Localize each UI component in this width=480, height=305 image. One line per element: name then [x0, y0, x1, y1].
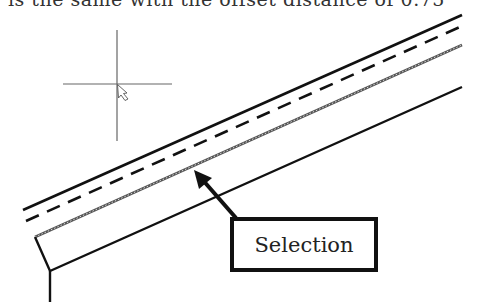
selected-dotted-line[interactable] — [35, 45, 462, 237]
pointer-hand-icon — [118, 85, 129, 101]
callout-arrow-icon — [194, 170, 236, 218]
offset-dashed-line[interactable] — [26, 26, 462, 221]
selection-callout-box: Selection — [230, 217, 378, 272]
crosshair-cursor-icon — [63, 30, 172, 141]
top-solid-line[interactable] — [23, 15, 462, 210]
selection-label: Selection — [254, 233, 353, 257]
